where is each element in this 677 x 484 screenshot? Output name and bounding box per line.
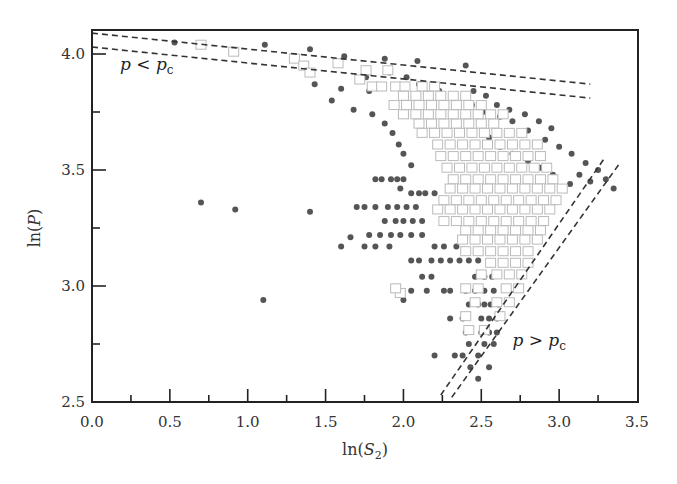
open-square-marker (483, 184, 493, 193)
filled-circle-marker (397, 186, 403, 192)
filled-circle-marker (583, 160, 589, 166)
open-square-marker (439, 196, 449, 205)
open-square-marker (451, 196, 461, 205)
filled-circle-marker (419, 274, 425, 280)
filled-circle-marker (408, 257, 414, 263)
open-square-marker (486, 152, 496, 161)
open-square-marker (461, 284, 471, 293)
open-square-marker (229, 47, 239, 56)
y-tick-label: 4.0 (61, 45, 85, 63)
open-square-marker (436, 91, 446, 100)
open-square-marker (557, 184, 567, 193)
open-square-marker (454, 128, 464, 137)
filled-circle-marker (536, 118, 542, 124)
filled-circle-marker (494, 102, 500, 108)
filled-circle-marker (438, 257, 444, 263)
open-square-marker (289, 54, 299, 63)
open-square-marker (458, 235, 468, 244)
x-tick-label: 2.5 (469, 413, 493, 431)
open-square-marker (523, 226, 533, 235)
open-square-marker (507, 140, 517, 149)
filled-circle-marker (386, 244, 392, 250)
filled-circle-marker (466, 341, 472, 347)
open-square-marker (495, 235, 505, 244)
filled-circle-marker (441, 288, 447, 294)
open-square-marker (464, 196, 474, 205)
open-square-marker (467, 163, 477, 172)
filled-circle-marker (475, 353, 481, 359)
y-axis-title: ln(P) (25, 209, 44, 248)
open-square-marker (439, 119, 449, 128)
filled-circle-marker (338, 244, 344, 250)
filled-circle-marker (548, 125, 554, 131)
open-square-marker (483, 235, 493, 244)
filled-circle-marker (379, 176, 385, 182)
open-square-marker (367, 82, 377, 91)
open-square-marker (486, 110, 496, 119)
open-square-marker (473, 110, 483, 119)
filled-circle-marker (408, 162, 414, 168)
open-square-marker (551, 196, 561, 205)
open-square-marker (529, 163, 539, 172)
open-square-marker (492, 163, 502, 172)
open-square-marker (461, 91, 471, 100)
open-square-marker (498, 152, 508, 161)
open-square-marker (461, 110, 471, 119)
open-square-marker (507, 235, 517, 244)
open-square-marker (545, 205, 555, 214)
open-square-marker (461, 247, 471, 256)
open-square-marker (445, 184, 455, 193)
filled-circle-marker (556, 144, 562, 150)
open-square-marker (511, 247, 521, 256)
x-tick-label: 1.0 (236, 413, 260, 431)
open-square-marker (489, 119, 499, 128)
open-square-marker (398, 110, 408, 119)
open-square-marker (383, 66, 393, 75)
open-square-marker (532, 184, 542, 193)
open-square-marker (523, 175, 533, 184)
open-square-marker (545, 184, 555, 193)
filled-circle-marker (410, 218, 416, 224)
scatter-chart: 0.00.51.01.52.02.53.03.52.53.03.54.0 ln(… (0, 0, 677, 484)
open-square-marker (436, 110, 446, 119)
filled-circle-marker (408, 288, 414, 294)
filled-circle-marker (388, 176, 394, 182)
filled-circle-marker (432, 353, 438, 359)
open-square-marker (520, 140, 530, 149)
open-square-marker (451, 217, 461, 226)
filled-circle-marker (522, 111, 528, 117)
open-square-marker (511, 258, 521, 267)
open-square-marker (451, 101, 461, 110)
open-square-marker (442, 163, 452, 172)
open-square-marker (470, 184, 480, 193)
open-square-marker (430, 128, 440, 137)
filled-circle-marker (307, 46, 313, 52)
y-tick-label: 3.5 (61, 161, 85, 179)
filled-circle-marker (419, 218, 425, 224)
open-square-marker (495, 140, 505, 149)
filled-circle-marker (388, 232, 394, 238)
open-square-marker (417, 128, 427, 137)
filled-circle-marker (396, 141, 402, 147)
open-square-marker (445, 205, 455, 214)
open-square-marker (461, 152, 471, 161)
open-square-marker (461, 226, 471, 235)
filled-circle-marker (542, 137, 548, 143)
filled-circle-marker (466, 257, 472, 263)
open-square-marker (498, 226, 508, 235)
open-square-marker (526, 217, 536, 226)
open-square-marker (430, 82, 440, 91)
open-square-marker (423, 91, 433, 100)
filled-circle-marker (481, 302, 487, 308)
open-square-marker (532, 140, 542, 149)
open-square-marker (517, 128, 527, 137)
filled-circle-marker (351, 107, 357, 113)
filled-circle-marker (509, 118, 515, 124)
open-square-marker (498, 110, 508, 119)
x-tick-label: 2.0 (391, 413, 415, 431)
open-square-marker (504, 270, 514, 279)
open-square-marker (486, 226, 496, 235)
open-square-marker (489, 217, 499, 226)
open-square-marker (454, 163, 464, 172)
open-square-marker (411, 91, 421, 100)
